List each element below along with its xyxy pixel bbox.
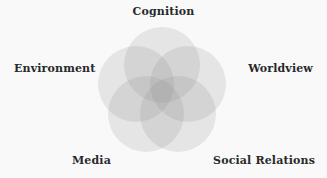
venn-label-cognition: Cognition [0, 5, 327, 18]
venn-label-environment: Environment [14, 62, 95, 75]
venn-label-social-relations: Social Relations [213, 154, 315, 167]
venn-label-worldview: Worldview [248, 62, 313, 75]
venn-label-media: Media [72, 154, 111, 167]
venn-diagram-container: Cognition Worldview Social Relations Med… [0, 0, 327, 178]
venn-circle-group [98, 27, 226, 152]
venn-circle-environment [98, 46, 174, 122]
venn-circles-svg [0, 0, 327, 178]
